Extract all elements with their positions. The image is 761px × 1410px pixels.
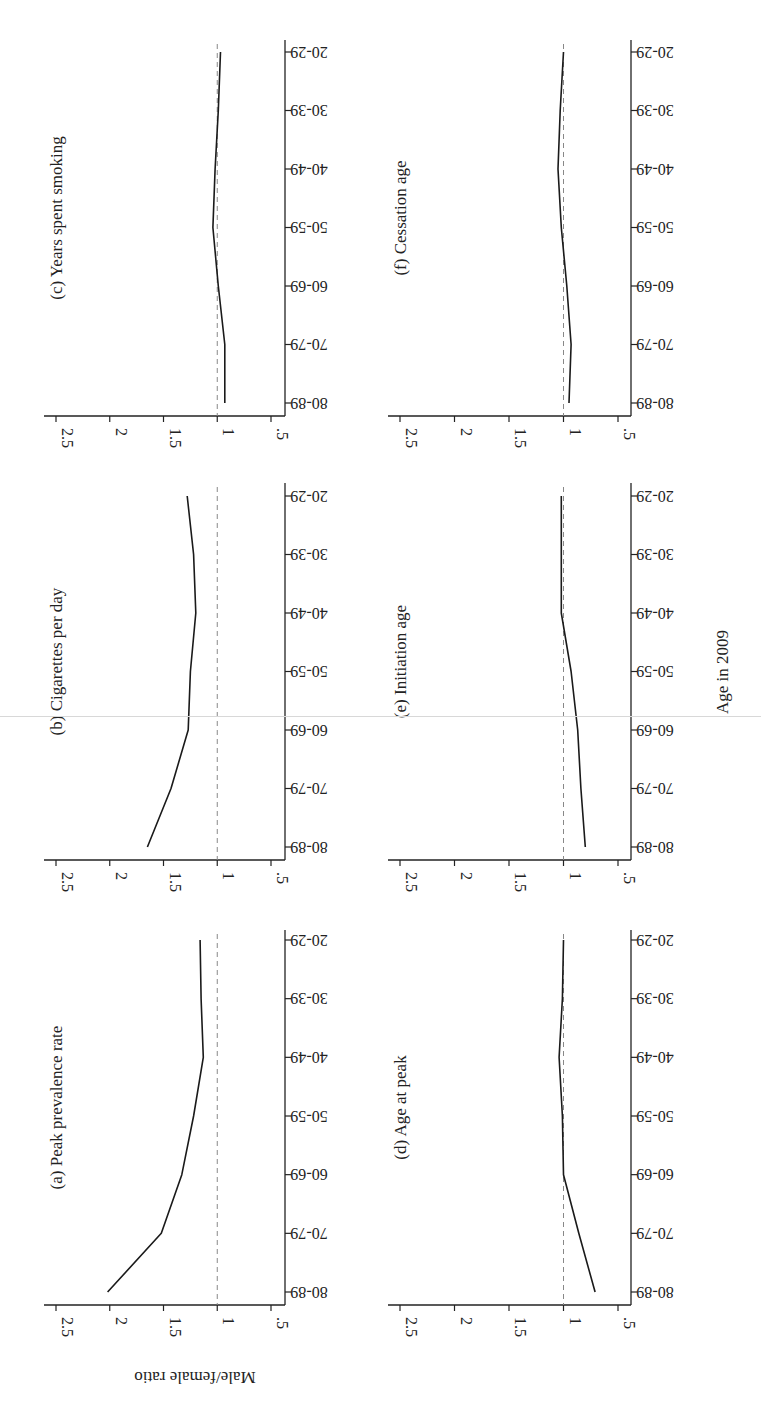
age-tick-label: 80-89 <box>636 1284 673 1301</box>
age-tick-label: 50-59 <box>290 1108 327 1125</box>
ratio-tick-label: 1.5 <box>512 872 529 892</box>
ratio-tick-label: 2 <box>113 428 130 436</box>
age-tick-label: 30-39 <box>290 990 327 1007</box>
age-tick-label: 40-49 <box>290 161 327 178</box>
ratio-tick-label: 1 <box>567 428 584 436</box>
ratio-series-line <box>108 940 204 1292</box>
panel-title: (b) Cigarettes per day <box>47 587 66 735</box>
ratio-tick-label: .5 <box>274 428 291 440</box>
figure-container: .511.522.580-8970-7960-6950-5940-4930-39… <box>0 0 761 1410</box>
ratio-tick-label: 1.5 <box>167 1317 184 1337</box>
age-tick-label: 80-89 <box>290 1284 327 1301</box>
panel-f: .511.522.580-8970-7960-6950-5940-4930-39… <box>388 40 674 448</box>
ratio-tick-label: 1.5 <box>167 428 184 448</box>
panel-e: .511.522.580-8970-7960-6950-5940-4930-39… <box>388 483 674 892</box>
age-tick-label: 40-49 <box>636 1049 673 1066</box>
age-tick-label: 60-69 <box>636 278 673 295</box>
panel-c: .511.522.580-8970-7960-6950-5940-4930-39… <box>44 40 328 448</box>
ratio-tick-label: .5 <box>274 872 291 884</box>
age-tick-label: 40-49 <box>636 605 673 622</box>
age-tick-label: 70-79 <box>290 780 327 797</box>
age-tick-label: 50-59 <box>636 1108 673 1125</box>
age-tick-label: 50-59 <box>636 663 673 680</box>
age-tick-label: 40-49 <box>290 1049 327 1066</box>
age-tick-label: 30-39 <box>636 546 673 563</box>
age-tick-label: 80-89 <box>290 839 327 856</box>
age-tick-label: 20-29 <box>290 932 327 949</box>
ratio-tick-label: 1 <box>220 872 237 880</box>
age-tick-label: 60-69 <box>290 278 327 295</box>
age-tick-label: 50-59 <box>290 219 327 236</box>
ratio-tick-label: 1 <box>220 428 237 436</box>
ratio-tick-label: 2 <box>458 872 475 880</box>
ratio-tick-label: 2.5 <box>59 428 76 448</box>
ratio-tick-label: 2 <box>113 872 130 880</box>
age-tick-label: 30-39 <box>636 990 673 1007</box>
scan-artifact-line <box>0 716 761 717</box>
ratio-tick-label: 2 <box>113 1317 130 1325</box>
ratio-tick-label: 2.5 <box>403 1317 420 1337</box>
ratio-tick-label: 2.5 <box>403 872 420 892</box>
y-axis-label: Male/female ratio <box>134 1368 255 1387</box>
ratio-series-line <box>561 496 585 847</box>
ratio-tick-label: 1.5 <box>167 872 184 892</box>
ratio-tick-label: 1 <box>567 872 584 880</box>
ratio-tick-label: 1 <box>567 1317 584 1325</box>
ratio-tick-label: 2 <box>458 428 475 436</box>
age-tick-label: 70-79 <box>636 780 673 797</box>
age-tick-label: 40-49 <box>636 161 673 178</box>
age-tick-label: 50-59 <box>290 663 327 680</box>
panel-title: (a) Peak prevalence rate <box>47 1026 66 1190</box>
ratio-series-line <box>147 496 195 847</box>
age-tick-label: 70-79 <box>290 1225 327 1242</box>
ratio-tick-label: .5 <box>621 428 638 440</box>
age-tick-label: 60-69 <box>636 722 673 739</box>
panel-b: .511.522.580-8970-7960-6950-5940-4930-39… <box>44 483 328 892</box>
panel-a: .511.522.580-8970-7960-6950-5940-4930-39… <box>44 930 328 1337</box>
age-tick-label: 60-69 <box>636 1166 673 1183</box>
age-tick-label: 80-89 <box>636 395 673 412</box>
ratio-tick-label: .5 <box>621 1317 638 1329</box>
age-tick-label: 20-29 <box>636 44 673 61</box>
age-tick-label: 50-59 <box>636 219 673 236</box>
age-tick-label: 40-49 <box>290 605 327 622</box>
age-tick-label: 70-79 <box>290 336 327 353</box>
age-tick-label: 70-79 <box>636 1225 673 1242</box>
ratio-tick-label: .5 <box>274 1317 291 1329</box>
age-tick-label: 30-39 <box>290 546 327 563</box>
age-tick-label: 70-79 <box>636 336 673 353</box>
ratio-tick-label: 2.5 <box>59 1317 76 1337</box>
x-axis-label: Age in 2009 <box>713 630 732 714</box>
age-tick-label: 20-29 <box>636 932 673 949</box>
age-tick-label: 20-29 <box>290 488 327 505</box>
age-tick-label: 20-29 <box>290 44 327 61</box>
panels-group: .511.522.580-8970-7960-6950-5940-4930-39… <box>44 40 674 1337</box>
ratio-tick-label: 1.5 <box>512 1317 529 1337</box>
age-tick-label: 80-89 <box>636 839 673 856</box>
ratio-tick-label: 2.5 <box>59 872 76 892</box>
ratio-series-line <box>558 52 571 403</box>
ratio-tick-label: 2 <box>458 1317 475 1325</box>
ratio-series-line <box>213 52 225 403</box>
ratio-series-line <box>559 940 595 1292</box>
panel-title: (c) Years spent smoking <box>47 136 66 300</box>
panel-title: (d) Age at peak <box>391 1055 410 1160</box>
age-tick-label: 60-69 <box>290 1166 327 1183</box>
age-tick-label: 30-39 <box>290 102 327 119</box>
age-tick-label: 30-39 <box>636 102 673 119</box>
age-tick-label: 60-69 <box>290 722 327 739</box>
panel-title: (e) Initiation age <box>391 605 410 718</box>
small-multiples-chart: .511.522.580-8970-7960-6950-5940-4930-39… <box>0 0 761 1410</box>
ratio-tick-label: 2.5 <box>403 428 420 448</box>
panel-title: (f) Cessation age <box>391 160 410 275</box>
panel-d: .511.522.580-8970-7960-6950-5940-4930-39… <box>388 930 674 1337</box>
age-tick-label: 20-29 <box>636 488 673 505</box>
ratio-tick-label: 1 <box>220 1317 237 1325</box>
ratio-tick-label: 1.5 <box>512 428 529 448</box>
age-tick-label: 80-89 <box>290 395 327 412</box>
ratio-tick-label: .5 <box>621 872 638 884</box>
